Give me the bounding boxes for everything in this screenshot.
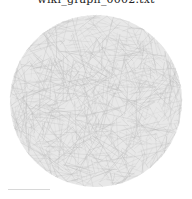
divider-line — [8, 189, 50, 190]
network-graph — [0, 0, 192, 199]
